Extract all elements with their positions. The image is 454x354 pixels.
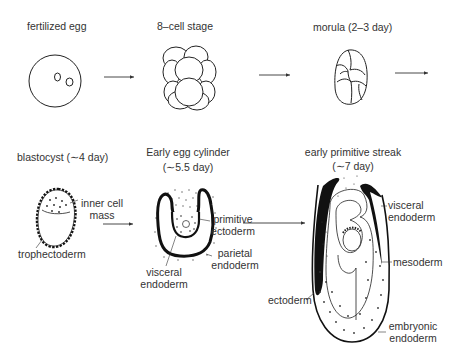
part-label-line: endoderm bbox=[383, 332, 443, 344]
part-label-line: primitive bbox=[208, 213, 258, 225]
part-label-inner-cell-mass: inner cell mass bbox=[74, 197, 130, 221]
stage-title: Early egg cylinder bbox=[138, 146, 238, 158]
part-label-line: ectoderm bbox=[208, 225, 258, 237]
eight-cell-drawing bbox=[163, 46, 216, 110]
primitive-streak-drawing bbox=[306, 175, 392, 342]
part-label-parietal-endoderm: parietal endoderm bbox=[210, 247, 260, 271]
part-label-ectoderm: ectoderm bbox=[268, 294, 312, 306]
part-label-line: visceral bbox=[139, 266, 189, 278]
part-label-line: embryonic bbox=[383, 320, 443, 332]
part-label-primitive-ectoderm: primitive ectoderm bbox=[208, 213, 258, 237]
diagram-canvas bbox=[0, 0, 454, 354]
part-label-line: endoderm bbox=[139, 278, 189, 290]
blastocyst-drawing bbox=[36, 190, 78, 248]
stage-label-morula: morula (2–3 day) bbox=[313, 21, 392, 33]
fertilized-egg-drawing bbox=[29, 55, 81, 107]
part-label-embryonic-endoderm: embryonic endoderm bbox=[383, 320, 443, 344]
part-label-line: endoderm bbox=[388, 211, 435, 223]
stage-subtitle: (∼5.5 day) bbox=[138, 161, 238, 173]
morula-drawing bbox=[335, 50, 367, 104]
part-label-visceral-endoderm: visceral endoderm bbox=[139, 266, 189, 290]
part-label-mesoderm: mesoderm bbox=[393, 256, 443, 268]
stage-label-blastocyst: blastocyst (∼4 day) bbox=[17, 151, 108, 163]
part-label-line: parietal bbox=[210, 247, 260, 259]
stage-label-egg-cylinder: Early egg cylinder (∼5.5 day) bbox=[138, 146, 238, 173]
part-label-line: visceral bbox=[388, 199, 435, 211]
part-label-line: mass bbox=[74, 209, 130, 221]
part-label-visceral-endoderm-7d: visceral endoderm bbox=[388, 199, 435, 223]
stage-label-fertilized-egg: fertilized egg bbox=[27, 20, 87, 32]
stage-title: early primitive streak bbox=[300, 146, 406, 158]
part-label-line: inner cell bbox=[74, 197, 130, 209]
stage-label-primitive-streak: early primitive streak (∼7 day) bbox=[300, 146, 406, 172]
part-label-line: endoderm bbox=[210, 259, 260, 271]
stage-subtitle: (∼7 day) bbox=[300, 160, 406, 172]
stage-label-8-cell: 8–cell stage bbox=[157, 20, 213, 32]
part-label-trophectoderm: trophectoderm bbox=[18, 248, 86, 260]
